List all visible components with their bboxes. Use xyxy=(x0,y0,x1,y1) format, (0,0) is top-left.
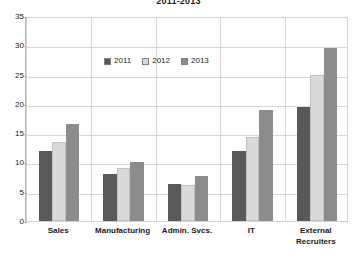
legend-swatch-icon-2012 xyxy=(142,58,149,65)
y-tick-label-20: 20 xyxy=(2,101,24,109)
x-axis-label-line: External xyxy=(284,226,348,237)
y-tick-mark-25 xyxy=(24,76,27,77)
y-tick-mark-30 xyxy=(24,46,27,47)
bar-2013-admin-svcs xyxy=(195,176,209,221)
y-tick-label-15: 15 xyxy=(2,130,24,138)
y-tick-mark-5 xyxy=(24,193,27,194)
x-axis-label-sales: Sales xyxy=(26,226,90,237)
bar-2013-sales xyxy=(66,124,80,221)
bar-chart: 2011-2013 05101520253035 SalesManufactur… xyxy=(0,0,357,263)
y-tick-mark-10 xyxy=(24,163,27,164)
bar-group-sales xyxy=(39,18,80,221)
bar-2012-sales xyxy=(52,142,66,221)
y-tick-label-35: 35 xyxy=(2,13,24,21)
x-axis-labels: SalesManufacturingAdmin. Svcs.ITExternal… xyxy=(26,226,348,262)
bar-2012-it xyxy=(246,137,260,221)
bar-group-admin-svcs xyxy=(168,18,209,221)
legend-item-2011[interactable]: 2011 xyxy=(104,57,131,65)
y-tick-mark-15 xyxy=(24,134,27,135)
bar-2013-manufacturing xyxy=(130,162,144,221)
legend-swatch-icon-2011 xyxy=(104,58,111,65)
bar-2011-sales xyxy=(39,151,53,221)
x-axis-label-line: Sales xyxy=(26,226,90,237)
bar-2013-it xyxy=(259,110,273,221)
x-axis-label-line: Admin. Svcs. xyxy=(155,226,219,237)
y-tick-label-25: 25 xyxy=(2,72,24,80)
chart-legend: 201120122013 xyxy=(104,55,209,67)
y-tick-mark-0 xyxy=(24,222,27,223)
x-axis-label-line: Recruiters xyxy=(284,237,348,248)
bar-2012-external-recruiters xyxy=(310,75,324,221)
x-axis-label-line: IT xyxy=(219,226,283,237)
chart-title: 2011-2013 xyxy=(0,0,357,7)
bar-group-it xyxy=(232,18,273,221)
bar-group-external-recruiters xyxy=(297,18,338,221)
y-tick-label-0: 0 xyxy=(2,218,24,226)
legend-label-2013: 2013 xyxy=(191,57,209,65)
bar-2013-external-recruiters xyxy=(324,48,338,221)
plot-inner xyxy=(27,18,347,221)
bar-2011-external-recruiters xyxy=(297,107,311,221)
legend-item-2013[interactable]: 2013 xyxy=(181,57,209,65)
bar-2012-manufacturing xyxy=(117,168,131,221)
bar-2011-it xyxy=(232,151,246,221)
legend-label-2012: 2012 xyxy=(152,57,170,65)
plot-area xyxy=(26,17,348,222)
category-separator-4 xyxy=(285,18,286,221)
x-axis-label-external-recruiters: ExternalRecruiters xyxy=(284,226,348,247)
legend-item-2012[interactable]: 2012 xyxy=(142,57,170,65)
bar-group-manufacturing xyxy=(103,18,144,221)
legend-label-2011: 2011 xyxy=(114,57,131,65)
x-axis-label-manufacturing: Manufacturing xyxy=(90,226,154,237)
x-axis-label-admin-svcs: Admin. Svcs. xyxy=(155,226,219,237)
y-tick-label-10: 10 xyxy=(2,159,24,167)
x-axis-label-line: Manufacturing xyxy=(90,226,154,237)
category-separator-3 xyxy=(220,18,221,221)
y-tick-label-30: 30 xyxy=(2,42,24,50)
y-axis: 05101520253035 xyxy=(0,17,24,222)
bar-2011-manufacturing xyxy=(103,174,117,221)
y-tick-mark-20 xyxy=(24,105,27,106)
bar-2012-admin-svcs xyxy=(181,185,195,221)
y-tick-mark-35 xyxy=(24,17,27,18)
legend-swatch-icon-2013 xyxy=(181,58,188,65)
category-separator-1 xyxy=(91,18,92,221)
y-tick-label-5: 5 xyxy=(2,189,24,197)
bar-2011-admin-svcs xyxy=(168,184,182,221)
x-axis-label-it: IT xyxy=(219,226,283,237)
category-separator-2 xyxy=(156,18,157,221)
